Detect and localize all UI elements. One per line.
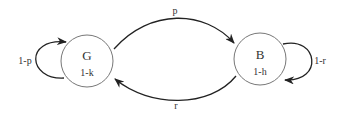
transition-g-self-label: 1-p (18, 55, 31, 66)
state-b-sublabel: 1-h (253, 66, 266, 77)
transition-g-to-b-label: p (173, 5, 178, 16)
markov-diagram: G 1-k B 1-h p r 1-p 1-r (0, 0, 345, 118)
transition-b-self: 1-r (283, 43, 326, 80)
arrow-g-to-b (114, 18, 234, 49)
transition-g-to-b: p (114, 5, 234, 49)
transition-b-to-g-label: r (174, 100, 178, 111)
transition-b-self-label: 1-r (314, 55, 326, 66)
transition-b-to-g: r (115, 76, 236, 111)
transition-g-self: 1-p (18, 42, 66, 78)
state-g: G 1-k (61, 35, 113, 87)
arrow-b-self (283, 43, 312, 80)
arrow-b-to-g (115, 76, 236, 100)
state-g-label: G (82, 48, 91, 63)
state-b-label: B (256, 47, 265, 62)
state-g-sublabel: 1-k (80, 67, 93, 78)
state-b: B 1-h (234, 33, 286, 85)
